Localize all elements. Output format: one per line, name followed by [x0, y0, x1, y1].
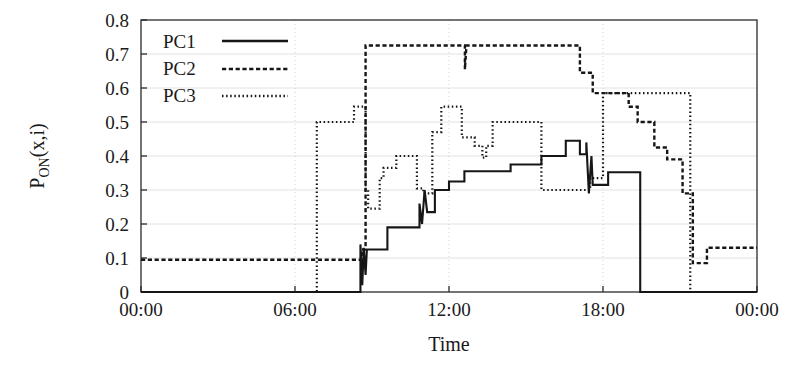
y-tick-label: 0.8: [105, 10, 129, 31]
legend-label-pc1: PC1: [163, 31, 196, 52]
y-axis-tick-labels: 00.10.20.30.40.50.60.70.8: [105, 10, 129, 303]
y-tick-label: 0.7: [105, 44, 129, 65]
x-tick-label: 00:00: [735, 299, 778, 320]
legend-label-pc2: PC2: [163, 58, 196, 79]
x-axis-title: Time: [428, 333, 470, 355]
chart-figure: 00.10.20.30.40.50.60.70.8 00:0006:0012:0…: [0, 0, 800, 368]
y-tick-label: 0.4: [105, 146, 129, 167]
y-axis-title-arg: (x,i): [26, 123, 49, 157]
y-tick-label: 0.6: [105, 78, 129, 99]
y-axis-title-subscript: ON: [37, 157, 52, 177]
y-tick-label: 0.5: [105, 112, 129, 133]
y-tick-label: 0.2: [105, 214, 129, 235]
y-tick-label: 0.3: [105, 180, 129, 201]
x-tick-label: 12:00: [427, 299, 470, 320]
legend-label-pc3: PC3: [163, 85, 196, 106]
y-tick-label: 0.1: [105, 248, 129, 269]
x-tick-label: 06:00: [273, 299, 316, 320]
x-tick-label: 00:00: [119, 299, 162, 320]
x-tick-label: 18:00: [581, 299, 624, 320]
y-axis-title-base: P: [26, 178, 48, 189]
